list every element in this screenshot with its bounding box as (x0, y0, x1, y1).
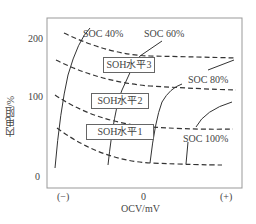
soc-60-label: SOC 60% (144, 29, 184, 39)
soh-level-2-box: SOH水平2 (91, 93, 149, 109)
soc-40-curve (55, 28, 90, 168)
y-tick-0: 0 (35, 172, 40, 182)
soh-level-3-label: SOH水平3 (106, 60, 151, 70)
x-tick-neg: (−) (57, 192, 69, 202)
soc-100-label: SOC 100% (183, 134, 228, 144)
soh-level-3-box: SOH水平3 (103, 57, 155, 73)
x-tick-pos: (+) (220, 192, 232, 202)
x-axis-label: OCV/mV (121, 204, 160, 214)
x-tick-zero: 0 (141, 192, 146, 202)
y-tick-200: 200 (28, 34, 43, 44)
soc-80-leader-top (208, 60, 234, 70)
y-tick-100: 100 (28, 92, 43, 102)
soc-80-curve (150, 84, 182, 163)
chart: 200 100 0 内电阻/% (−) 0 (+) OCV/mV SOC 40%… (0, 0, 256, 224)
soc-60-leader (140, 41, 162, 56)
soh-level-1-box: SOH水平1 (86, 124, 154, 140)
soc-100-leader-curve (196, 102, 232, 127)
soc-80-label: SOC 80% (188, 75, 228, 85)
soh-level-2-label: SOH水平2 (97, 96, 142, 106)
soc-40-label: SOC 40% (83, 29, 123, 39)
y-axis-label: 内电阻/% (6, 96, 16, 137)
soh-level-1-label: SOH水平1 (97, 127, 142, 137)
soc-100-leader (186, 142, 188, 164)
